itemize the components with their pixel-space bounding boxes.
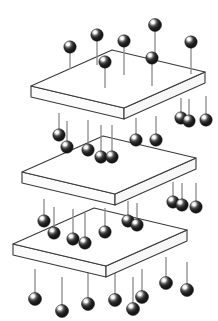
- sphere-highlight: [85, 300, 88, 303]
- sphere-node[interactable]: [95, 151, 107, 163]
- sphere-highlight: [82, 239, 85, 242]
- sphere-node[interactable]: [61, 141, 73, 153]
- sphere-highlight: [98, 153, 101, 156]
- sphere-highlight: [170, 198, 173, 201]
- sphere-highlight: [178, 114, 181, 117]
- sphere-highlight: [32, 295, 35, 298]
- sphere-highlight: [51, 229, 54, 232]
- sphere-node[interactable]: [53, 129, 65, 141]
- sphere-highlight: [193, 203, 196, 206]
- sphere-node[interactable]: [130, 134, 142, 146]
- sphere-node[interactable]: [185, 36, 197, 48]
- sphere-highlight: [152, 21, 155, 24]
- sphere-node[interactable]: [56, 305, 69, 318]
- sphere-highlight: [153, 136, 156, 139]
- plate-middle[interactable]: [22, 136, 196, 205]
- plate-top[interactable]: [31, 50, 205, 119]
- sphere-node[interactable]: [106, 151, 118, 163]
- sphere-highlight: [186, 117, 189, 120]
- sphere-node[interactable]: [118, 35, 130, 47]
- sphere-node[interactable]: [64, 41, 76, 53]
- sphere-node[interactable]: [200, 114, 212, 126]
- sphere-node[interactable]: [82, 298, 95, 311]
- sphere-highlight: [184, 286, 187, 289]
- sphere-highlight: [59, 307, 62, 310]
- sphere-node[interactable]: [79, 237, 91, 249]
- sphere-node[interactable]: [146, 52, 158, 64]
- sphere-highlight: [149, 54, 152, 57]
- sphere-node[interactable]: [48, 227, 60, 239]
- sphere-highlight: [203, 116, 206, 119]
- sphere-highlight: [163, 279, 166, 282]
- sphere-highlight: [41, 217, 44, 220]
- sphere-highlight: [112, 296, 115, 299]
- stacked-plates-diagram: Three stacked plates with pin-mounted sp…: [0, 0, 218, 321]
- sphere-node[interactable]: [183, 115, 195, 127]
- sphere-highlight: [125, 217, 128, 220]
- sphere-highlight: [102, 228, 105, 231]
- sphere-node[interactable]: [150, 134, 162, 146]
- sphere-node[interactable]: [127, 303, 140, 316]
- figure-canvas: Three stacked plates with pin-mounted sp…: [0, 0, 218, 321]
- sphere-node[interactable]: [160, 277, 173, 290]
- sphere-highlight: [67, 43, 70, 46]
- sphere-highlight: [56, 131, 59, 134]
- sphere-highlight: [188, 38, 191, 41]
- sphere-highlight: [179, 201, 182, 204]
- sphere-node[interactable]: [99, 56, 111, 68]
- sphere-node[interactable]: [67, 233, 79, 245]
- sphere-highlight: [130, 305, 133, 308]
- sphere-node[interactable]: [29, 293, 42, 306]
- sphere-highlight: [139, 293, 142, 296]
- sphere-highlight: [134, 221, 137, 224]
- sphere-node[interactable]: [91, 29, 103, 41]
- sphere-highlight: [70, 235, 73, 238]
- sphere-highlight: [133, 136, 136, 139]
- sphere-highlight: [85, 146, 88, 149]
- sphere-node[interactable]: [190, 201, 202, 213]
- sphere-node[interactable]: [131, 219, 143, 231]
- sphere-node[interactable]: [136, 291, 149, 304]
- sphere-node[interactable]: [109, 294, 122, 307]
- sphere-node[interactable]: [38, 215, 50, 227]
- sphere-node[interactable]: [149, 19, 162, 32]
- sphere-node[interactable]: [82, 144, 94, 156]
- sphere-highlight: [109, 153, 112, 156]
- sphere-node[interactable]: [181, 284, 194, 297]
- sphere-node[interactable]: [176, 199, 188, 211]
- sphere-highlight: [102, 58, 105, 61]
- sphere-highlight: [121, 37, 124, 40]
- sphere-highlight: [64, 143, 67, 146]
- sphere-highlight: [94, 31, 97, 34]
- sphere-node[interactable]: [99, 226, 111, 238]
